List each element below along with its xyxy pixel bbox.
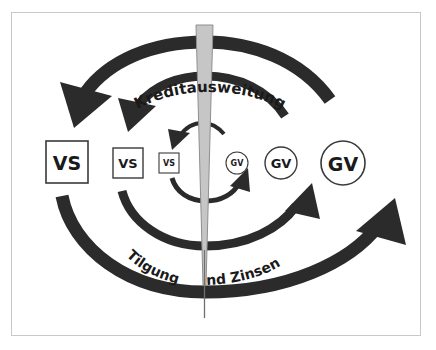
gv-large-label: GV [328, 153, 359, 175]
gv-medium-label: GV [271, 156, 292, 171]
inner-credit-expansion-arrow [168, 123, 224, 150]
vs-medium-node: VS [113, 148, 143, 178]
diagram-canvas: VS VS VS GV GV GV Kreditausweitung T [0, 0, 436, 350]
vs-small-label: VS [163, 159, 175, 168]
cycle-diagram: VS VS VS GV GV GV Kreditausweitung T [0, 0, 436, 350]
vs-small-node: VS [159, 153, 179, 173]
gv-medium-node: GV [265, 147, 297, 179]
middle-repayment-arrow [122, 183, 320, 246]
vs-large-node: VS [46, 141, 88, 183]
vs-large-label: VS [53, 152, 81, 174]
gv-small-node: GV [226, 152, 248, 174]
vs-medium-label: VS [118, 156, 137, 171]
gv-large-node: GV [321, 141, 365, 185]
gv-small-label: GV [231, 159, 245, 168]
